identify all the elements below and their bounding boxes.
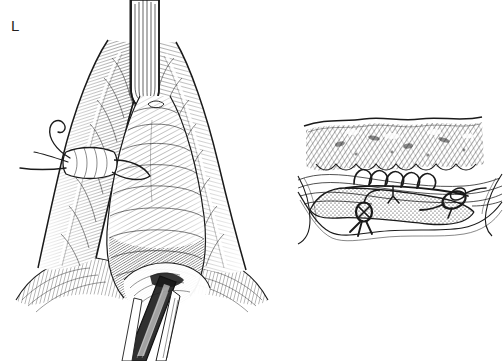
retractor-blade (129, 0, 159, 108)
figure-canvas: L (0, 0, 504, 361)
panel-m: M (296, 60, 504, 250)
panel-label-l: L (11, 18, 20, 33)
panel-l-illustration (0, 0, 290, 361)
panel-l: L (0, 0, 290, 361)
panel-m-illustration (296, 60, 504, 250)
hatched-muscle-layer (306, 122, 484, 171)
